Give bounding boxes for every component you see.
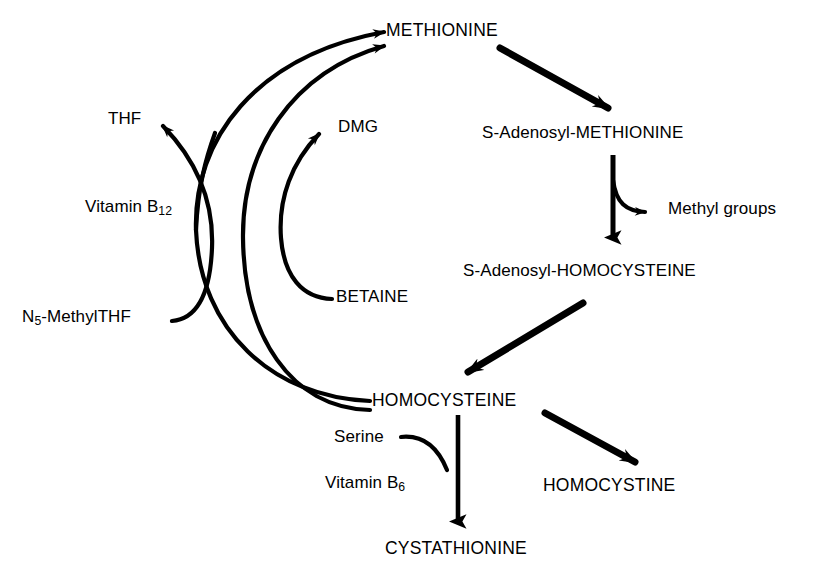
node-methyl-groups: Methyl groups [668, 200, 776, 217]
edge-betaine-to-dmg [281, 134, 332, 299]
node-homocysteine: HOMOCYSTEINE [372, 392, 516, 410]
edge-homocysteine-to-methionine-b12 [196, 32, 384, 401]
vitamin-b12-subscript: 12 [158, 204, 172, 218]
node-homocystine: HOMOCYSTINE [543, 477, 676, 495]
pathway-diagram: METHIONINE S-Adenosyl-METHIONINE Methyl … [0, 0, 819, 586]
edge-methionine-to-sam [500, 48, 608, 108]
edge-homocysteine-to-methionine-betaine [243, 46, 384, 410]
label-vitamin-b12: Vitamin B12 [85, 198, 172, 218]
edge-n5-methylthf-to-thf [163, 126, 212, 321]
node-methionine: METHIONINE [386, 22, 498, 40]
node-betaine: BETAINE [336, 288, 408, 305]
vitamin-b6-text: Vitamin B [325, 473, 398, 492]
edge-homocysteine-to-homocystine [545, 413, 635, 462]
node-thf: THF [108, 110, 141, 127]
node-s-adenosyl-homocysteine: S-Adenosyl-HOMOCYSTEINE [463, 262, 696, 279]
n5-methylthf-prefix: N [22, 307, 34, 326]
n5-methylthf-suffix: -MethylTHF [41, 307, 131, 326]
node-serine: Serine [334, 428, 384, 445]
edge-sam-to-methyl-groups [613, 180, 645, 212]
node-cystathionine: CYSTATHIONINE [385, 540, 527, 558]
pathway-arrows-layer [0, 0, 819, 586]
label-vitamin-b6: Vitamin B6 [325, 474, 405, 494]
node-s-adenosyl-methionine: S-Adenosyl-METHIONINE [482, 124, 683, 141]
node-n5-methylthf: N5-MethylTHF [22, 308, 131, 328]
node-dmg: DMG [338, 118, 378, 135]
vitamin-b6-subscript: 6 [398, 480, 405, 494]
edge-serine-to-cystathionine [401, 437, 447, 470]
vitamin-b12-text: Vitamin B [85, 197, 158, 216]
edge-sah-to-homocysteine [468, 303, 583, 372]
